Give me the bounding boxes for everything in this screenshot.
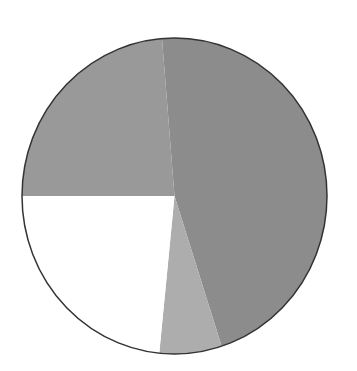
pie-slice-3: [22, 196, 175, 353]
pie-chart: [0, 0, 357, 371]
pie-slice-4: [22, 39, 175, 197]
pie-chart-svg: [0, 0, 357, 371]
